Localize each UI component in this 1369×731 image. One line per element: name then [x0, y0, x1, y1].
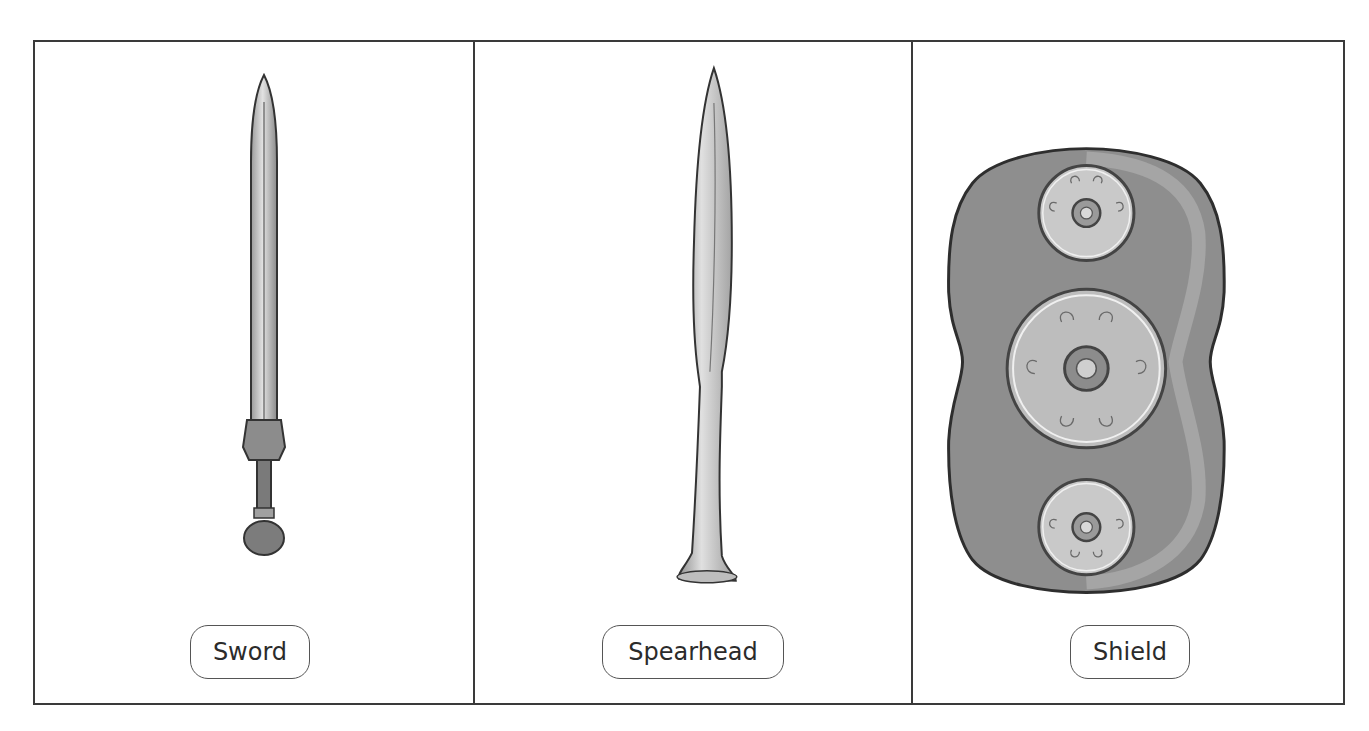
- panel-spearhead: Spearhead: [473, 42, 911, 703]
- sword-icon: [35, 42, 473, 602]
- panel-shield: Shield: [911, 42, 1343, 703]
- spearhead-icon: [475, 42, 911, 602]
- label-sword: Sword: [190, 625, 310, 679]
- artifact-card-sheet: Sword Spearhead: [33, 40, 1345, 705]
- label-spearhead: Spearhead: [602, 625, 784, 679]
- shield-icon: [913, 42, 1343, 602]
- label-shield: Shield: [1070, 625, 1190, 679]
- panel-sword: Sword: [35, 42, 473, 703]
